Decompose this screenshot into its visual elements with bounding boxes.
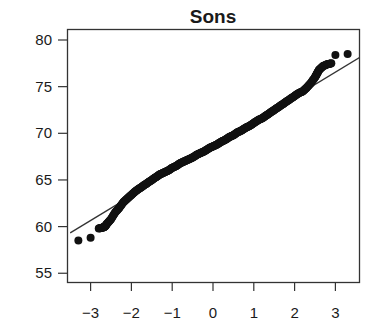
x-tick-label: −1 [164,304,181,321]
y-tick-label: 75 [35,78,52,95]
y-tick-label: 70 [35,124,52,141]
x-tick-label: −3 [82,304,99,321]
data-point [331,51,339,59]
data-point [74,237,82,245]
data-point [87,234,95,242]
plot-area [70,50,360,245]
y-tick-label: 55 [35,264,52,281]
plot-frame [68,30,360,283]
y-tick-label: 60 [35,218,52,235]
x-axis: −3−2−10123 [82,283,340,322]
x-tick-label: 3 [331,304,339,321]
data-point [327,59,335,67]
y-tick-label: 80 [35,31,52,48]
qq-plot-chart: Sons 556065707580 −3−2−10123 [0,0,378,333]
chart-title: Sons [190,6,236,27]
x-tick-label: 0 [209,304,217,321]
y-axis: 556065707580 [35,31,67,281]
x-tick-label: 1 [250,304,258,321]
data-point [344,50,352,58]
x-tick-label: −2 [123,304,140,321]
y-tick-label: 65 [35,171,52,188]
x-tick-label: 2 [290,304,298,321]
